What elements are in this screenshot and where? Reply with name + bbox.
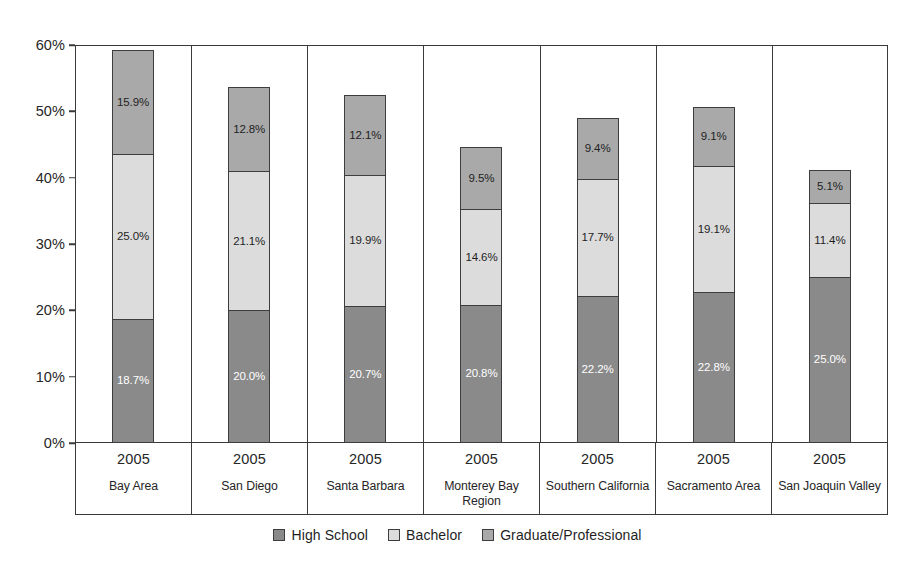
bar-segment-value-label: 12.1%	[349, 130, 381, 142]
bar-segment-value-label: 9.1%	[701, 131, 727, 143]
bar-segment-value-label: 12.8%	[233, 124, 265, 136]
bar-segment-value-label: 11.4%	[814, 235, 845, 247]
y-axis-tick-label: 0%	[44, 435, 65, 451]
legend-item-label: High School	[291, 527, 368, 543]
swatch-graduate-professional-icon	[482, 529, 494, 541]
bar-segment-value-label: 19.1%	[698, 224, 730, 236]
legend-item[interactable]: High School	[273, 527, 368, 543]
y-axis-tick-label: 50%	[36, 103, 65, 119]
y-axis: 0%10%20%30%40%50%60%	[0, 45, 75, 443]
bar-column: 5.1%11.4%25.0%	[772, 45, 888, 443]
y-axis-tick-label: 30%	[36, 236, 65, 252]
bar-segment[interactable]: 22.8%	[693, 292, 735, 443]
swatch-high-school-icon	[273, 529, 285, 541]
x-axis-category: 2005Sacramento Area	[656, 443, 772, 514]
bar-segment[interactable]: 15.9%	[112, 50, 154, 155]
bar-segment-value-label: 19.9%	[349, 235, 381, 247]
bar-segment-value-label: 20.8%	[465, 368, 497, 380]
bar-segment[interactable]: 17.7%	[577, 179, 619, 296]
bar-segment[interactable]: 18.7%	[112, 319, 154, 443]
bar-segment-value-label: 18.7%	[117, 375, 149, 387]
bar-segment-value-label: 22.8%	[698, 362, 730, 374]
x-axis-category: 2005Santa Barbara	[308, 443, 424, 514]
x-axis-category: 2005Southern California	[540, 443, 656, 514]
bar-column: 9.5%14.6%20.8%	[423, 45, 539, 443]
bar-segment[interactable]: 21.1%	[228, 171, 270, 311]
bar-segment-value-label: 14.6%	[465, 252, 497, 264]
x-axis-year-label: 2005	[581, 451, 614, 467]
bar-column: 15.9%25.0%18.7%	[75, 45, 191, 443]
stacked-bar[interactable]: 12.8%21.1%20.0%	[228, 88, 270, 443]
bar-segment[interactable]: 9.1%	[693, 107, 735, 167]
bar-segment-value-label: 15.9%	[117, 97, 149, 109]
y-axis-tick-label: 10%	[36, 369, 65, 385]
x-axis-category: 2005San Diego	[192, 443, 308, 514]
bar-segment-value-label: 22.2%	[582, 364, 614, 376]
swatch-bachelor-icon	[388, 529, 400, 541]
bar-segment[interactable]: 12.1%	[344, 95, 386, 175]
x-axis-year-label: 2005	[349, 451, 382, 467]
x-axis-region-label: San Diego	[219, 479, 280, 494]
bar-segment-value-label: 21.1%	[233, 236, 265, 248]
bar-segment-value-label: 25.0%	[814, 354, 846, 366]
stacked-bar[interactable]: 5.1%11.4%25.0%	[809, 171, 851, 443]
legend-item[interactable]: Graduate/Professional	[482, 527, 641, 543]
bar-segment[interactable]: 20.7%	[344, 306, 386, 443]
x-axis-region-label: Bay Area	[107, 479, 160, 494]
y-axis-tick-label: 20%	[36, 302, 65, 318]
stacked-bar[interactable]: 15.9%25.0%18.7%	[112, 51, 154, 443]
y-axis-tick-label: 60%	[36, 37, 65, 53]
x-axis-year-label: 2005	[813, 451, 846, 467]
stacked-bar[interactable]: 9.5%14.6%20.8%	[460, 148, 502, 443]
bar-column: 12.1%19.9%20.7%	[307, 45, 423, 443]
bar-segment[interactable]: 14.6%	[460, 209, 502, 306]
bar-segment[interactable]: 22.2%	[577, 296, 619, 443]
bar-segment-value-label: 20.0%	[233, 371, 265, 383]
bar-segment[interactable]: 11.4%	[809, 203, 851, 279]
x-axis-category: 2005Bay Area	[76, 443, 192, 514]
x-axis-region-label: San Joaquin Valley	[776, 479, 883, 494]
x-axis-region-label: Sacramento Area	[665, 479, 763, 494]
bar-segment-value-label: 9.5%	[469, 173, 495, 185]
x-axis-year-label: 2005	[117, 451, 150, 467]
bar-segment[interactable]: 9.5%	[460, 147, 502, 210]
bar-column: 9.4%17.7%22.2%	[540, 45, 656, 443]
x-axis-region-label: Monterey Bay Region	[424, 479, 539, 509]
stacked-bar-chart: 0%10%20%30%40%50%60% 15.9%25.0%18.7%12.8…	[0, 0, 915, 572]
bar-segment-value-label: 25.0%	[117, 231, 149, 243]
stacked-bar[interactable]: 9.1%19.1%22.8%	[693, 108, 735, 443]
bar-segment-value-label: 9.4%	[585, 143, 611, 155]
y-axis-tick-label: 40%	[36, 170, 65, 186]
bar-segment[interactable]: 20.8%	[460, 305, 502, 443]
x-axis-region-label: Santa Barbara	[325, 479, 407, 494]
x-axis-categories: 2005Bay Area2005San Diego2005Santa Barba…	[75, 443, 888, 515]
bar-segment[interactable]: 20.0%	[228, 310, 270, 443]
x-axis-category: 2005Monterey Bay Region	[424, 443, 540, 514]
bar-segment[interactable]: 19.9%	[344, 175, 386, 307]
bars-layer: 15.9%25.0%18.7%12.8%21.1%20.0%12.1%19.9%…	[75, 45, 888, 443]
bar-column: 9.1%19.1%22.8%	[656, 45, 772, 443]
x-axis-year-label: 2005	[233, 451, 266, 467]
legend-item-label: Graduate/Professional	[500, 527, 641, 543]
x-axis-year-label: 2005	[465, 451, 498, 467]
x-axis-region-label: Southern California	[544, 479, 651, 494]
chart-legend: High SchoolBachelorGraduate/Professional	[0, 527, 915, 543]
bar-segment-value-label: 17.7%	[582, 232, 614, 244]
bar-segment[interactable]: 19.1%	[693, 166, 735, 293]
x-axis-category: 2005San Joaquin Valley	[772, 443, 887, 514]
bar-segment[interactable]: 25.0%	[809, 277, 851, 443]
bar-segment[interactable]: 5.1%	[809, 170, 851, 204]
stacked-bar[interactable]: 12.1%19.9%20.7%	[344, 96, 386, 443]
stacked-bar[interactable]: 9.4%17.7%22.2%	[577, 119, 619, 443]
bar-segment[interactable]: 9.4%	[577, 118, 619, 180]
legend-item[interactable]: Bachelor	[388, 527, 462, 543]
bar-segment-value-label: 20.7%	[349, 369, 381, 381]
bar-column: 12.8%21.1%20.0%	[191, 45, 307, 443]
bar-segment[interactable]: 25.0%	[112, 154, 154, 320]
bar-segment-value-label: 5.1%	[817, 181, 843, 193]
legend-item-label: Bachelor	[406, 527, 462, 543]
bar-segment[interactable]: 12.8%	[228, 87, 270, 172]
x-axis-year-label: 2005	[697, 451, 730, 467]
